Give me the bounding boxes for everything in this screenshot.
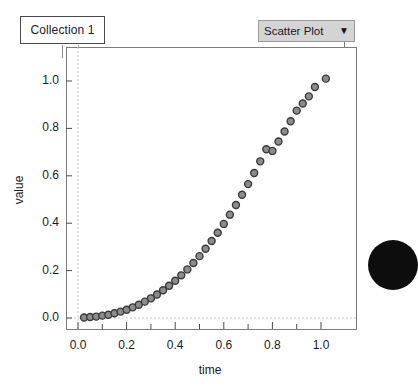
- data-point[interactable]: [281, 128, 288, 135]
- data-point[interactable]: [166, 282, 173, 289]
- scatter-plot-canvas[interactable]: [66, 47, 357, 330]
- data-point[interactable]: [239, 191, 246, 198]
- y-axis-tick-label: 0.6: [25, 168, 59, 182]
- y-axis-tick-label: 0.8: [25, 120, 59, 134]
- data-point[interactable]: [208, 237, 215, 244]
- chevron-down-icon: ▼: [339, 26, 349, 36]
- data-point[interactable]: [293, 107, 300, 114]
- data-point[interactable]: [202, 245, 209, 252]
- collection-connector-left: [62, 45, 63, 58]
- data-point[interactable]: [184, 266, 191, 273]
- data-point[interactable]: [196, 253, 203, 260]
- data-point[interactable]: [299, 100, 306, 107]
- data-point[interactable]: [214, 229, 221, 236]
- cursor-blob: [368, 240, 418, 290]
- data-point[interactable]: [245, 181, 252, 188]
- data-point[interactable]: [190, 260, 197, 267]
- x-axis-title: time: [180, 363, 240, 377]
- data-point[interactable]: [220, 220, 227, 227]
- collection-box[interactable]: Collection 1: [20, 16, 105, 44]
- data-point[interactable]: [275, 138, 282, 145]
- data-point[interactable]: [322, 75, 329, 82]
- y-axis-tick-label: 0.4: [25, 215, 59, 229]
- data-point[interactable]: [305, 93, 312, 100]
- data-point[interactable]: [269, 147, 276, 154]
- data-point[interactable]: [172, 277, 179, 284]
- x-axis-tick-label: 0.2: [110, 338, 144, 352]
- x-axis-tick-label: 1.0: [304, 338, 338, 352]
- y-axis-tick-label: 0.0: [25, 310, 59, 324]
- x-axis-tick-label: 0.4: [158, 338, 192, 352]
- data-point[interactable]: [287, 118, 294, 125]
- data-point[interactable]: [226, 211, 233, 218]
- x-axis-tick-label: 0.6: [207, 338, 241, 352]
- x-axis-tick-label: 0.8: [255, 338, 289, 352]
- data-point[interactable]: [251, 169, 258, 176]
- plot-type-label: Scatter Plot: [264, 25, 335, 37]
- y-axis-title: value: [13, 165, 25, 215]
- data-point[interactable]: [232, 201, 239, 208]
- plot-type-dropdown[interactable]: Scatter Plot ▼: [258, 20, 355, 42]
- x-axis-tick-label: 0.0: [61, 338, 95, 352]
- collection-name: Collection 1: [31, 23, 95, 37]
- y-axis-tick-label: 1.0: [25, 73, 59, 87]
- data-point[interactable]: [178, 272, 185, 279]
- y-axis-tick-label: 0.2: [25, 263, 59, 277]
- data-point[interactable]: [257, 158, 264, 165]
- data-point[interactable]: [311, 83, 318, 90]
